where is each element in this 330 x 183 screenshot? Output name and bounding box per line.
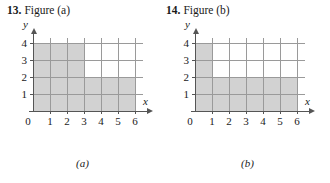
x-axis-label-b: x (305, 95, 310, 107)
y-tick-a-4 (30, 43, 33, 44)
x-ticklabel-a-5: 5 (112, 116, 124, 127)
x-axis-arrow-a (147, 108, 153, 114)
x-axis-arrow-b (309, 108, 315, 114)
y-axis-label-b: y (185, 18, 190, 30)
x-tick-b-2 (229, 111, 230, 114)
figure-b-title: Figure (b) (183, 4, 229, 16)
figure-a-heading: 13.Figure (a) (7, 3, 70, 17)
x-ticklabel-a-6: 6 (129, 116, 141, 127)
y-tick-a-1 (30, 94, 33, 95)
y-tick-b-2 (192, 77, 195, 78)
y-axis-label-a: y (23, 18, 28, 30)
gridline-v-b-4 (263, 38, 264, 111)
y-axis-a (33, 34, 34, 111)
y-tick-b-1 (192, 94, 195, 95)
x-ticklabel-b-6: 6 (291, 116, 303, 127)
figure-pair-sheet: 13.Figure (a) (0, 0, 330, 183)
gridline-v-b-2 (229, 38, 230, 111)
figure-b-number: 14. (166, 4, 180, 16)
x-ticklabel-a-4: 4 (95, 116, 107, 127)
x-axis-label-a: x (143, 95, 148, 107)
x-tick-b-5 (280, 111, 281, 114)
gridline-v-a-4 (101, 38, 102, 111)
y-tick-b-4 (192, 43, 195, 44)
y-axis-b (195, 34, 196, 111)
x-tick-b-6 (297, 111, 298, 114)
y-ticklabel-a-1: 1 (17, 89, 27, 100)
gridline-v-b-3 (246, 38, 247, 111)
y-tick-b-3 (192, 60, 195, 61)
gridline-v-a-6 (135, 38, 136, 111)
y-ticklabel-b-4: 4 (179, 38, 189, 49)
x-ticklabel-b-4: 4 (257, 116, 269, 127)
y-ticklabel-a-2: 2 (17, 72, 27, 83)
x-ticklabel-b-0: 0 (184, 116, 196, 127)
y-tick-a-3 (30, 60, 33, 61)
gridline-v-a-5 (118, 38, 119, 111)
x-axis-a (29, 111, 147, 112)
x-axis-b (191, 111, 309, 112)
gridline-v-a-1 (50, 38, 51, 111)
y-ticklabel-b-3: 3 (179, 55, 189, 66)
y-ticklabel-b-1: 1 (179, 89, 189, 100)
x-tick-a-2 (67, 111, 68, 114)
x-tick-a-5 (118, 111, 119, 114)
y-ticklabel-a-3: 3 (17, 55, 27, 66)
x-ticklabel-b-2: 2 (223, 116, 235, 127)
x-ticklabel-b-5: 5 (274, 116, 286, 127)
x-ticklabel-a-2: 2 (61, 116, 73, 127)
figure-a-number: 13. (7, 4, 21, 16)
x-ticklabel-b-1: 1 (206, 116, 218, 127)
figure-b-heading: 14.Figure (b) (166, 3, 230, 17)
figure-panel-b: 14.Figure (b) (165, 0, 330, 183)
x-tick-a-4 (101, 111, 102, 114)
y-tick-a-2 (30, 77, 33, 78)
x-tick-b-4 (263, 111, 264, 114)
gridline-v-b-6 (297, 38, 298, 111)
x-tick-b-3 (246, 111, 247, 114)
x-tick-a-6 (135, 111, 136, 114)
x-ticklabel-b-3: 3 (240, 116, 252, 127)
gridline-v-b-1 (212, 38, 213, 111)
figure-a-caption: (a) (0, 157, 165, 169)
figure-b-plot: 0 1 2 3 4 5 6 4 3 2 1 y x (195, 43, 305, 129)
x-tick-b-1 (212, 111, 213, 114)
x-ticklabel-a-0: 0 (22, 116, 34, 127)
gridline-v-a-2 (67, 38, 68, 111)
x-tick-a-1 (50, 111, 51, 114)
x-tick-a-3 (84, 111, 85, 114)
y-ticklabel-a-4: 4 (17, 38, 27, 49)
figure-panel-a: 13.Figure (a) (0, 0, 165, 183)
figure-b-caption: (b) (165, 157, 330, 169)
x-ticklabel-a-1: 1 (44, 116, 56, 127)
x-ticklabel-a-3: 3 (78, 116, 90, 127)
y-axis-arrow-b (193, 28, 199, 34)
gridline-v-b-5 (280, 38, 281, 111)
y-ticklabel-b-2: 2 (179, 72, 189, 83)
y-axis-arrow-a (31, 28, 37, 34)
figure-a-plot: 0 1 2 3 4 5 6 4 3 2 1 y x (33, 43, 143, 129)
gridline-v-a-3 (84, 38, 85, 111)
figure-a-title: Figure (a) (24, 4, 70, 16)
